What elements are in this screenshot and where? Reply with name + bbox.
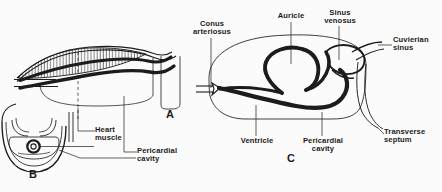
- panel-c-sinus-venosus-wall: [326, 45, 365, 74]
- label-auricle: Auricle: [270, 12, 312, 20]
- label-heart-muscle: Heart muscle: [95, 126, 122, 143]
- panel-b-arch-right-inner: [39, 118, 52, 132]
- label-transverse-septum: Transverse septum: [384, 128, 425, 145]
- anatomical-figure: Heart muscle Pericardial cavity Conus ar…: [0, 0, 442, 192]
- panel-c-drawing: [196, 22, 392, 136]
- label-ventricle: Ventricle: [234, 137, 280, 145]
- label-sinus-venosus: Sinus venosus: [318, 9, 362, 26]
- panel-b-arch-left-outer: [12, 120, 28, 136]
- label-conus-arteriosus: Conus arteriosus: [186, 20, 238, 37]
- panel-b-heart-muscle-ring: [27, 140, 39, 152]
- plate-label-b: B: [29, 168, 37, 180]
- label-pericardial-cavity-a: Pericardial cavity: [137, 147, 177, 164]
- panel-c-transverse-septum-line-b: [365, 64, 383, 129]
- panel-b-arch-left-inner: [16, 118, 29, 132]
- panel-b-body-wall-outer: [2, 122, 66, 172]
- plate-label-c: C: [287, 152, 295, 164]
- label-pericardial-cavity-c: Pericardial cavity: [299, 137, 347, 154]
- panel-c-auricle-wall: [265, 48, 318, 93]
- panel-b-body-wall-top-left: [2, 104, 16, 122]
- panel-c-transverse-septum-line-a: [357, 62, 378, 128]
- panel-a-bracket: [161, 56, 180, 109]
- panel-b-heart-lumen: [31, 144, 36, 149]
- panel-b-leader-pericardial-cavity: [59, 150, 136, 158]
- panel-b-arch-right-outer: [40, 120, 56, 136]
- plate-label-a: A: [166, 108, 174, 120]
- panel-a-leader-heart-muscle: [78, 108, 95, 131]
- label-cuvierian-sinus: Cuvierian sinus: [393, 36, 429, 53]
